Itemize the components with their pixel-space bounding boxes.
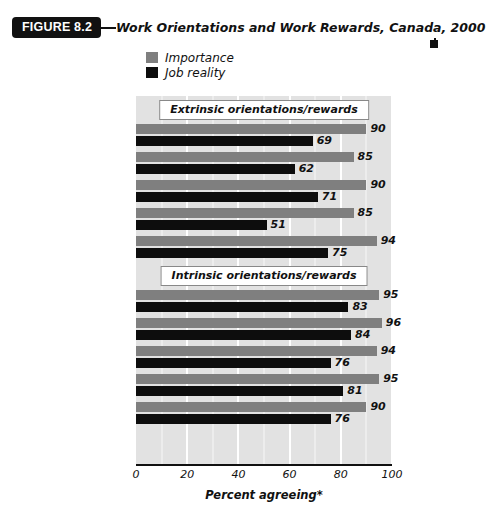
chart-row: Freedom to decide9476 [0,344,462,372]
bar-value-label: 94 [381,234,396,247]
chart-row: Job security9071 [0,178,462,206]
bar-importance [136,346,377,356]
legend-item: Importance [146,50,234,65]
legend-item-label: Job reality [165,66,225,80]
legend-item-label: Importance [165,51,234,65]
section-header: Extrinsic orientations/rewards [159,100,369,120]
chart-row: Balance work and family9475 [0,234,462,262]
x-tick-label: 40 [231,468,245,481]
bar-value-label: 76 [335,412,350,425]
bar-value-label: 85 [358,150,373,163]
bar-reality [136,358,331,368]
x-axis-ticks: 020406080100 [136,468,392,484]
chart-row: Pays well9069 [0,122,462,150]
bar-reality [136,220,267,230]
figure-badge: FIGURE 8.2 [12,17,101,38]
figure-header: FIGURE 8.2 Work Orientations and Work Re… [0,14,462,44]
x-tick-label: 20 [180,468,194,481]
bar-value-label: 96 [386,316,401,329]
x-tick-label: 0 [133,468,140,481]
chart-row: Receive recognition9076 [0,400,462,428]
chart-row: Interesting work9583 [0,288,462,316]
bar-importance [136,318,382,328]
chart-row: Good benefits8562 [0,150,462,178]
bar-importance [136,152,354,162]
chart-legend: ImportanceJob reality [146,50,234,80]
figure-title: Work Orientations and Work Rewards, Cana… [116,17,490,38]
x-axis-line [136,464,392,466]
section-band: Intrinsic orientations/rewards [0,262,462,288]
bar-value-label: 83 [352,300,367,313]
bar-value-label: 84 [355,328,370,341]
chart-area: Extrinsic orientations/rewardsPays well9… [0,96,462,496]
bar-importance [136,124,366,134]
bar-importance [136,180,366,190]
x-tick-label: 80 [334,468,348,481]
bar-reality [136,302,348,312]
bar-value-label: 69 [317,134,332,147]
bar-reality [136,192,318,202]
bar-value-label: 51 [271,218,286,231]
bar-importance [136,402,366,412]
bar-reality [136,136,313,146]
bar-value-label: 81 [347,384,362,397]
legend-item: Job reality [146,65,234,80]
bar-value-label: 94 [381,344,396,357]
bar-value-label: 90 [370,122,385,135]
bar-importance [136,208,354,218]
bar-reality [136,248,328,258]
bar-value-label: 62 [299,162,314,175]
legend-swatch-job-reality [146,67,158,78]
x-tick-label: 60 [283,468,297,481]
bar-reality [136,414,331,424]
bar-value-label: 85 [358,206,373,219]
bar-importance [136,236,377,246]
bar-value-label: 90 [370,178,385,191]
bar-reality [136,386,343,396]
bar-value-label: 95 [383,288,398,301]
legend-swatch-importance [146,52,158,63]
section-band: Extrinsic orientations/rewards [0,96,462,122]
bar-importance [136,290,379,300]
chart-row: Develop skills and abilities9581 [0,372,462,400]
chart-row: Career advancement8551 [0,206,462,234]
chart-rows: Extrinsic orientations/rewardsPays well9… [0,96,462,428]
bar-importance [136,374,379,384]
x-tick-label: 100 [382,468,403,481]
bar-reality [136,330,351,340]
bar-reality [136,164,295,174]
bar-value-label: 90 [370,400,385,413]
section-header: Intrinsic orientations/rewards [161,266,368,286]
x-axis-title: Percent agreeing* [136,488,392,502]
bar-value-label: 71 [322,190,337,203]
chart-row: Sense of accomplishment9684 [0,316,462,344]
bar-value-label: 95 [383,372,398,385]
bar-value-label: 76 [335,356,350,369]
bar-value-label: 75 [332,246,347,259]
header-rule-end-dot-icon [430,40,438,48]
